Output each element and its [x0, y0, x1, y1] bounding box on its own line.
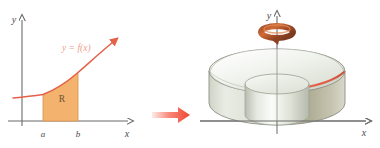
- tick-label-b: b: [76, 129, 81, 139]
- y-axis-label-left: y: [11, 14, 17, 25]
- solid-panel: x y: [200, 10, 367, 138]
- curve-label: y = f(x): [61, 43, 91, 54]
- y-axis-label-right: y: [266, 10, 272, 21]
- figure-canvas: y = f(x) R a b x y: [0, 0, 380, 148]
- region-label: R: [59, 94, 66, 104]
- transition-arrow: [152, 107, 190, 123]
- tick-label-a: a: [41, 129, 46, 139]
- x-axis-label-right: x: [361, 127, 367, 138]
- right-arrow-icon: [152, 107, 190, 123]
- plane-region-panel: y = f(x) R a b x y: [8, 14, 130, 139]
- figure-container: y = f(x) R a b x y: [0, 0, 380, 148]
- rotation-arrow-icon: [261, 25, 293, 45]
- x-axis-label-left: x: [124, 128, 130, 139]
